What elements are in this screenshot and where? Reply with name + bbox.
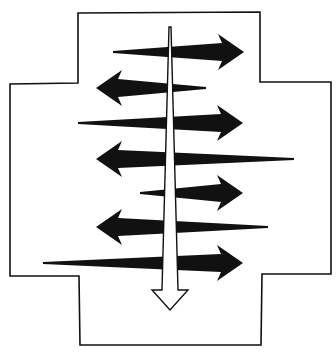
flow-arrow-right-1 [113, 34, 244, 70]
flow-arrow-left-4 [96, 141, 294, 177]
flow-arrow-right-3 [78, 105, 243, 141]
flow-arrow-left-6 [96, 209, 268, 245]
flow-arrow-right-5 [140, 175, 243, 211]
cross-flow-diagram [0, 0, 336, 356]
flow-arrow-left-2 [96, 70, 206, 106]
diagram-canvas [0, 0, 336, 356]
